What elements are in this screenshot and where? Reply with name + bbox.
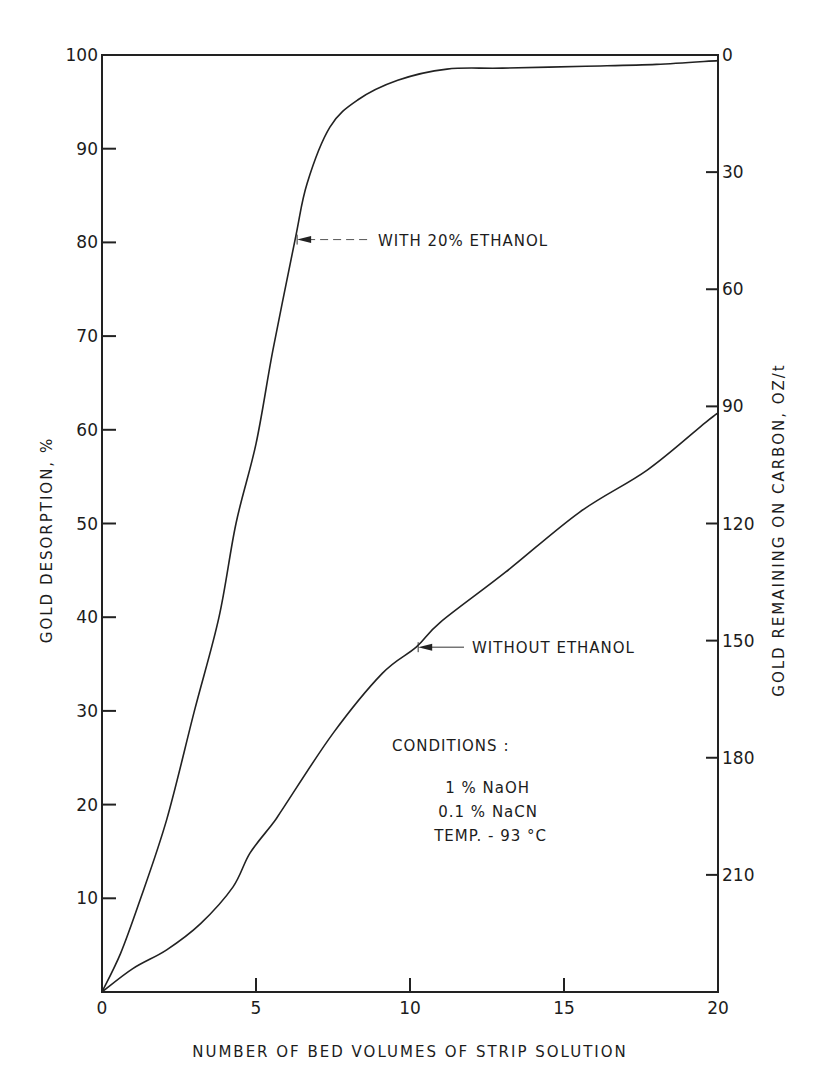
x-tick-label: 15 — [553, 998, 575, 1018]
y-tick-label: 100 — [66, 45, 98, 65]
y2-axis-title: GOLD REMAINING ON CARBON, OZ/t — [770, 363, 788, 696]
x-axis-ticks: 05101520 — [97, 978, 729, 1018]
y2-tick-label: 60 — [722, 279, 744, 299]
y-axis-ticks: 102030405060708090100 — [66, 45, 116, 908]
plot-border — [102, 55, 718, 992]
series-without-ethanol-line — [102, 413, 718, 992]
y2-tick-label: 210 — [722, 865, 754, 885]
annotation-with-ethanol: WITH 20% ETHANOL — [297, 232, 548, 250]
annotation-label: WITH 20% ETHANOL — [378, 232, 548, 250]
y2-tick-label: 90 — [722, 396, 744, 416]
series-with-ethanol-line — [102, 61, 718, 992]
conditions-heading: CONDITIONS : — [392, 737, 509, 755]
y2-tick-label: 0 — [722, 45, 733, 65]
annotations: WITH 20% ETHANOLWITHOUT ETHANOL — [297, 232, 635, 658]
y-tick-label: 60 — [76, 420, 98, 440]
y-tick-label: 10 — [76, 888, 98, 908]
y2-tick-label: 120 — [722, 514, 754, 534]
arrow-head-icon — [418, 644, 432, 651]
y-tick-label: 70 — [76, 326, 98, 346]
plot-frame — [102, 55, 718, 992]
y2-tick-label: 150 — [722, 631, 754, 651]
conditions-line-temp: TEMP. - 93 °C — [433, 827, 547, 845]
y2-tick-label: 180 — [722, 748, 754, 768]
data-series — [102, 61, 718, 992]
conditions-line-naoh: 1 % NaOH — [445, 779, 530, 797]
y-tick-label: 80 — [76, 232, 98, 252]
y-tick-label: 20 — [76, 795, 98, 815]
annotation-without-ethanol: WITHOUT ETHANOL — [418, 639, 635, 657]
gold-desorption-chart: 05101520 102030405060708090100 030609012… — [0, 0, 824, 1080]
x-axis-title: NUMBER OF BED VOLUMES OF STRIP SOLUTION — [192, 1043, 628, 1061]
y-axis-title: GOLD DESORPTION, % — [38, 437, 56, 643]
arrow-head-icon — [297, 236, 311, 243]
annotation-label: WITHOUT ETHANOL — [472, 639, 635, 657]
conditions-line-nacn: 0.1 % NaCN — [438, 803, 538, 821]
y-tick-label: 40 — [76, 607, 98, 627]
y-tick-label: 30 — [76, 701, 98, 721]
conditions-box: CONDITIONS : 1 % NaOH 0.1 % NaCN TEMP. -… — [392, 737, 547, 845]
x-tick-label: 20 — [707, 998, 729, 1018]
y-tick-label: 90 — [76, 139, 98, 159]
x-tick-label: 0 — [97, 998, 108, 1018]
y2-axis-ticks: 0306090120150180210 — [706, 45, 754, 885]
x-tick-label: 10 — [399, 998, 421, 1018]
y-tick-label: 50 — [76, 514, 98, 534]
x-tick-label: 5 — [251, 998, 262, 1018]
y2-tick-label: 30 — [722, 162, 744, 182]
